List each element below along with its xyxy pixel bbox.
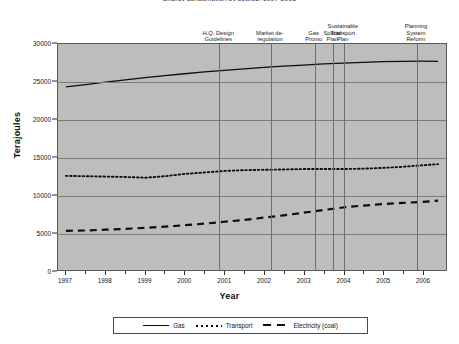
series-line-transport: [66, 164, 438, 178]
gridline-y: [58, 120, 446, 121]
x-tick-minor: [204, 271, 205, 274]
y-tick-label: 10000: [0, 192, 57, 199]
legend-swatch-solid: [143, 322, 169, 330]
x-tick-label: 2005: [376, 277, 390, 284]
y-axis-title: Terajoules: [12, 85, 22, 185]
legend-item[interactable]: Transport: [196, 322, 253, 330]
gridline-y: [58, 82, 446, 83]
gridline-y: [58, 234, 446, 235]
y-tick-mark: [52, 195, 57, 196]
y-tick-mark: [52, 157, 57, 158]
legend-label: Electricity (coal): [293, 322, 337, 329]
legend-item[interactable]: Gas: [143, 322, 185, 330]
x-tick-label: 2006: [416, 277, 430, 284]
x-tick-mark: [383, 271, 384, 275]
legend-item[interactable]: Electricity (coal): [263, 322, 337, 330]
y-tick-mark: [52, 43, 57, 44]
x-tick-mark: [224, 271, 225, 275]
x-tick-mark: [264, 271, 265, 275]
gridline-y: [58, 158, 446, 159]
x-tick-minor: [403, 271, 404, 274]
annotation-line-3: [333, 44, 334, 270]
x-tick-label: 2001: [217, 277, 231, 284]
gridline-y: [58, 196, 446, 197]
annotation-line-4: [344, 44, 345, 270]
y-tick-label: 25000: [0, 78, 57, 85]
x-tick-minor: [85, 271, 86, 274]
x-axis-ticks: 1997199819992000200120022003200420052006: [57, 271, 447, 293]
x-tick-mark: [145, 271, 146, 275]
legend-label: Gas: [173, 322, 185, 329]
x-tick-mark: [423, 271, 424, 275]
x-tick-minor: [284, 271, 285, 274]
series-layer: [58, 44, 446, 270]
x-tick-minor: [363, 271, 364, 274]
y-tick-mark: [52, 233, 57, 234]
x-tick-mark: [344, 271, 345, 275]
annotation-labels: H.Q. Design GuidelinesMarket de- regulat…: [0, 4, 459, 43]
x-tick-mark: [304, 271, 305, 275]
annotation-line-2: [315, 44, 316, 270]
y-tick-label: 30000: [0, 40, 57, 47]
x-tick-minor: [125, 271, 126, 274]
series-line-electricity-coal: [66, 201, 438, 231]
chart-title: Energy consumption by source, 1997-2006: [0, 0, 459, 1]
x-tick-label: 2003: [297, 277, 311, 284]
annotation-line-5: [417, 44, 418, 270]
series-line-gas: [66, 61, 438, 87]
x-tick-label: 1999: [138, 277, 152, 284]
y-tick-label: 15000: [0, 154, 57, 161]
x-tick-mark: [105, 271, 106, 275]
y-tick-label: 5000: [0, 230, 57, 237]
plot-area: [57, 43, 447, 271]
x-tick-minor: [324, 271, 325, 274]
x-tick-label: 2000: [177, 277, 191, 284]
annotation-line-0: [219, 44, 220, 270]
x-tick-minor: [164, 271, 165, 274]
annotation-label-0: H.Q. Design Guidelines: [202, 30, 234, 43]
annotation-label-2: Gas Promo: [305, 30, 322, 43]
x-tick-mark: [184, 271, 185, 275]
x-tick-minor: [244, 271, 245, 274]
chart-container: Energy consumption by source, 1997-2006 …: [0, 0, 459, 344]
annotation-label-1: Market de- regulation: [256, 30, 284, 43]
x-tick-label: 1998: [98, 277, 112, 284]
legend-swatch-dotted: [196, 322, 222, 330]
x-tick-label: 2004: [337, 277, 351, 284]
annotation-label-5: Planning System Reform: [405, 23, 428, 43]
annotation-label-4: Sustainable Transport Plan: [328, 23, 358, 43]
y-tick-label: 20000: [0, 116, 57, 123]
x-tick-mark: [65, 271, 66, 275]
legend-label: Transport: [226, 322, 253, 329]
x-axis-title: Year: [0, 291, 459, 301]
y-tick-label: 0: [0, 268, 57, 275]
y-tick-mark: [52, 81, 57, 82]
x-tick-label: 2002: [257, 277, 271, 284]
x-tick-label: 1997: [58, 277, 72, 284]
y-axis-ticks: 050001000015000200002500030000: [0, 43, 57, 271]
chart-legend: GasTransportElectricity (coal): [113, 317, 368, 334]
legend-swatch-dashed: [263, 322, 289, 330]
y-tick-mark: [52, 119, 57, 120]
annotation-line-1: [271, 44, 272, 270]
